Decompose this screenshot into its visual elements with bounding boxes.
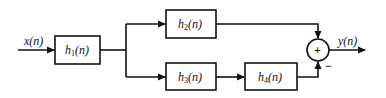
block-h2: h2(n)	[166, 10, 216, 38]
block-h1-label: h1(n)	[65, 43, 89, 58]
input-signal: x(n)	[18, 34, 54, 50]
arrow-h2-to-summer	[216, 24, 318, 38]
block-h4: h4(n)	[245, 63, 297, 90]
split-wires	[100, 24, 165, 77]
summer-plus-icon: +	[314, 43, 321, 57]
block-h1: h1(n)	[55, 36, 100, 64]
summing-junction: + −	[307, 39, 332, 73]
block-h4-label: h4(n)	[258, 70, 282, 85]
block-diagram: x(n) h1(n) h2(n) h3(n) h4(n) + −	[0, 0, 386, 98]
output-signal: y(n)	[329, 34, 365, 50]
arrow-h4-to-summer	[297, 62, 318, 77]
block-h2-label: h2(n)	[178, 17, 202, 32]
input-label: x(n)	[23, 34, 43, 48]
output-label: y(n)	[337, 34, 357, 48]
block-h3-label: h3(n)	[178, 70, 202, 85]
minus-sign: −	[325, 59, 332, 73]
block-h3: h3(n)	[166, 63, 216, 90]
